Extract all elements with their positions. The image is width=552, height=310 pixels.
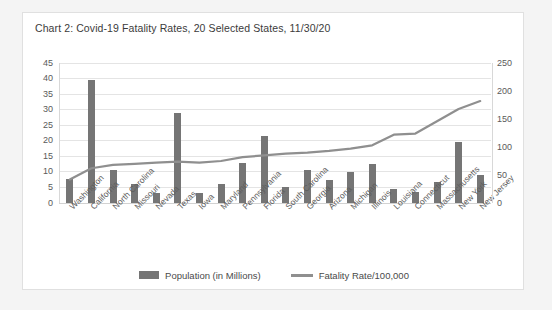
y-tick-right-0: 0 — [497, 199, 502, 208]
x-label-massachusetts: Massachusetts — [435, 205, 441, 211]
y-tick-right-150: 150 — [497, 115, 512, 124]
plot-wrapper: 051015202530354045 050100150200250 Washi… — [23, 13, 525, 291]
x-label-maryland: Maryland — [219, 205, 225, 211]
y-tick-left-0: 0 — [29, 199, 53, 208]
legend-item-fatality-rate: Fatality Rate/100,000 — [291, 270, 409, 281]
x-label-louisiana: Louisiana — [392, 205, 398, 211]
x-label-nevada: Nevada — [154, 205, 160, 211]
x-label-pennsylvania: Pennsylvania — [241, 205, 247, 211]
x-label-new-jersey: New Jersey — [478, 205, 484, 211]
y-tick-left-25: 25 — [29, 121, 53, 130]
y-tick-left-40: 40 — [29, 74, 53, 83]
y-tick-left-35: 35 — [29, 90, 53, 99]
legend-item-population: Population (in Millions) — [139, 270, 261, 281]
x-label-michigan: Michigan — [349, 205, 355, 211]
x-label-arizona: Arizona — [327, 205, 333, 211]
y-axis-right-line — [492, 63, 493, 203]
legend-line-swatch-icon — [291, 274, 313, 277]
y-tick-left-30: 30 — [29, 105, 53, 114]
y-tick-left-10: 10 — [29, 167, 53, 176]
chart-legend: Population (in Millions) Fatality Rate/1… — [23, 265, 525, 285]
x-label-connecticut: Connecticut — [413, 205, 419, 211]
legend-bar-swatch-icon — [139, 271, 159, 279]
legend-population-label: Population (in Millions) — [165, 270, 261, 281]
x-label-new-york: New York — [457, 205, 463, 211]
y-tick-right-250: 250 — [497, 59, 512, 68]
y-tick-left-15: 15 — [29, 152, 53, 161]
x-label-iowa: Iowa — [197, 205, 203, 211]
x-axis-labels: WashingtonCaliforniaNorth CarolinaMissou… — [59, 205, 491, 271]
x-label-florida: Florida — [262, 205, 268, 211]
y-axis-left: 051015202530354045 — [29, 63, 53, 203]
x-label-texas: Texas — [176, 205, 182, 211]
x-label-georgia: Georgia — [305, 205, 311, 211]
y-axis-left-line — [59, 63, 60, 203]
y-tick-left-5: 5 — [29, 183, 53, 192]
x-label-illinois: Illinois — [370, 205, 376, 211]
y-tick-left-45: 45 — [29, 59, 53, 68]
x-label-washington: Washington — [68, 205, 74, 211]
page-root: Chart 2: Covid-19 Fatality Rates, 20 Sel… — [0, 0, 552, 310]
y-tick-right-100: 100 — [497, 143, 512, 152]
y-tick-left-20: 20 — [29, 136, 53, 145]
y-tick-right-200: 200 — [497, 87, 512, 96]
chart-card: Chart 2: Covid-19 Fatality Rates, 20 Sel… — [22, 12, 524, 290]
x-label-california: California — [89, 205, 95, 211]
x-label-south-carolina: South Carolina — [284, 205, 290, 211]
x-label-north-carolina: North Carolina — [111, 205, 117, 211]
x-label-missouri: Missouri — [133, 205, 139, 211]
legend-fatality-rate-label: Fatality Rate/100,000 — [319, 270, 409, 281]
